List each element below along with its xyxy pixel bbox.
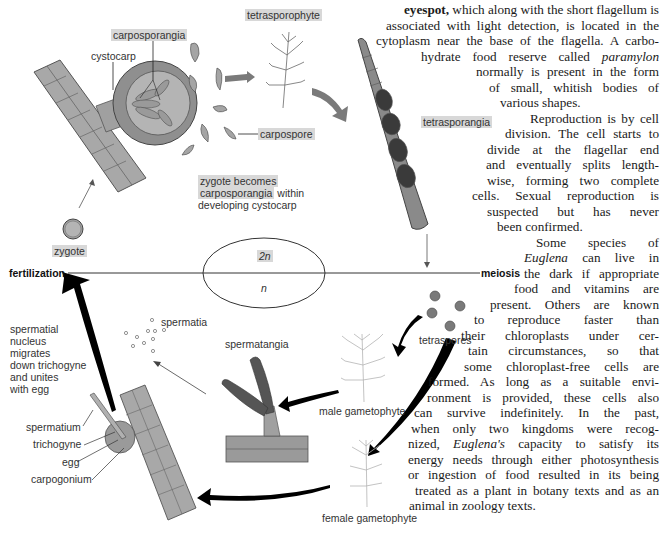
carpogonium-branch-drawing xyxy=(90,385,196,520)
body-text-line: or ingestion of food resulted in its bei… xyxy=(408,467,659,482)
body-text-line: can survive indefinitely. In the past, xyxy=(414,405,659,420)
tetraspores-drawing xyxy=(427,291,465,331)
label-female-gametophyte: female gametophyte xyxy=(322,512,417,524)
body-text-line: to reproduce faster than xyxy=(474,312,659,327)
male-gametophyte-drawing xyxy=(341,334,385,402)
body-text-line: divide at the flagellar end xyxy=(487,142,659,157)
body-text-line: their chloroplasts under cer- xyxy=(461,328,659,343)
label-carpospore: carpospore xyxy=(258,128,315,140)
body-text-line: animal in zoology texts. xyxy=(409,498,659,513)
body-text-line: cytoplasm near the base of the flagella.… xyxy=(376,33,659,48)
label-zygote: zygote xyxy=(52,245,87,257)
body-text-line: some chloroplast-free cells are xyxy=(464,359,659,374)
body-text-line: normally is present in the form xyxy=(476,64,659,79)
label-trichogyne: trichogyne xyxy=(33,438,81,450)
body-text-line: eyespot, which along with the short flag… xyxy=(404,2,659,17)
label-diploid-2n: 2n xyxy=(257,250,273,262)
body-text-line: cells. Sexual reproduction is xyxy=(472,188,659,203)
label-tetrasporangia: tetrasporangia xyxy=(421,116,492,128)
body-text-line: food and vitamins are xyxy=(514,281,659,296)
body-text-line: ronment is provided, these cells also xyxy=(427,390,659,405)
arrow-to-spermatia xyxy=(157,363,206,394)
label-spermatium: spermatium xyxy=(26,421,81,433)
body-text-line: present. Others are known xyxy=(490,297,659,312)
body-text-line: Some species of xyxy=(536,235,659,250)
tetrasporangia-drawing xyxy=(358,38,428,229)
body-text-line: various shapes. xyxy=(500,95,659,110)
arrow-to-cystocarp xyxy=(79,183,92,208)
body-text-line: and eventually splits length- xyxy=(486,157,659,172)
body-text-line: tain circumstances, so that xyxy=(468,343,659,358)
body-text-line: the dark if appropriate xyxy=(524,266,659,281)
body-text-line: hydrate food reserve called paramylon xyxy=(421,49,659,64)
body-text-line: formed. As long as a suitable envi- xyxy=(428,374,659,389)
body-text-line: energy needs through either photosynthes… xyxy=(408,452,659,467)
body-text-line: division. The cell starts to xyxy=(505,126,659,141)
spermatia-dots xyxy=(124,318,165,352)
body-text-line: when only two kingdoms were recog- xyxy=(411,421,659,436)
label-fertilization: fertilization xyxy=(9,267,65,279)
body-text-line: suspected but has never xyxy=(487,204,659,219)
label-zygote-becomes: zygote becomes carposporangia within dev… xyxy=(198,175,304,211)
body-text-line: Euglena can live in xyxy=(524,250,659,265)
body-text-line: associated with light detection, is loca… xyxy=(386,18,659,33)
label-spermatia: spermatia xyxy=(161,316,207,328)
body-text-line: been confirmed. xyxy=(497,219,659,234)
label-cystocarp: cystocarp xyxy=(91,50,136,62)
body-text-line: treated as a plant in botany texts and a… xyxy=(415,483,659,498)
label-nucleus-note: spermatial nucleus migrates down trichog… xyxy=(10,323,86,395)
label-carpogonium: carpogonium xyxy=(31,473,92,485)
label-haploid-n: n xyxy=(261,282,267,294)
arrow-to-carpogonium xyxy=(197,485,330,506)
label-egg: egg xyxy=(62,456,80,468)
tetrasporophyte-plant-drawing xyxy=(266,32,305,108)
body-text-line: Reproduction is by cell xyxy=(530,111,659,126)
body-text-line: wise, forming two complete xyxy=(487,173,659,188)
arrow-to-tetrasporangia xyxy=(312,88,348,122)
body-text-line: of small, whitish bodies of xyxy=(489,80,659,95)
label-carposporangia: carposporangia xyxy=(111,29,187,41)
label-spermatangia: spermatangia xyxy=(225,338,289,350)
arrow-to-tetrasporophyte xyxy=(225,71,255,83)
spermatangia-drawing xyxy=(222,357,308,462)
label-male-gametophyte: male gametophyte xyxy=(319,405,405,417)
body-text-line: nized, Euglena's capacity to satisfy its xyxy=(408,436,659,451)
label-tetrasporophyte: tetrasporophyte xyxy=(245,9,322,21)
label-meiosis: meiosis xyxy=(481,267,520,279)
